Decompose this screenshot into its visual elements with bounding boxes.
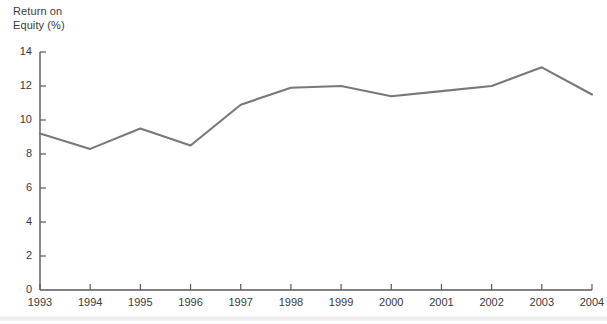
x-axis-tick-label: 1999	[318, 296, 364, 308]
x-axis-tick-label: 1994	[67, 296, 113, 308]
bottom-divider-band	[0, 316, 607, 321]
y-axis-tick-label: 14	[8, 45, 32, 57]
x-axis-ticks	[40, 284, 592, 290]
x-axis-tick-label: 2003	[519, 296, 565, 308]
x-axis-tick-label: 2000	[368, 296, 414, 308]
x-axis-tick-label: 1996	[168, 296, 214, 308]
y-axis-tick-label: 2	[8, 249, 32, 261]
y-axis-tick-label: 8	[8, 147, 32, 159]
x-axis-tick-label: 1993	[17, 296, 63, 308]
return-on-equity-chart: Return on Equity (%) 02468101214 1993199…	[0, 0, 607, 324]
chart-plot-area	[0, 0, 607, 324]
y-axis-tick-label: 12	[8, 79, 32, 91]
y-axis-tick-label: 6	[8, 181, 32, 193]
x-axis-tick-label: 1997	[218, 296, 264, 308]
y-axis-tick-label: 0	[8, 283, 32, 295]
x-axis-tick-label: 1998	[268, 296, 314, 308]
y-axis-tick-label: 4	[8, 215, 32, 227]
x-axis-tick-label: 1995	[117, 296, 163, 308]
y-axis-tick-label: 10	[8, 113, 32, 125]
x-axis-tick-label: 2001	[418, 296, 464, 308]
y-axis-ticks	[40, 52, 46, 256]
data-series-line	[40, 67, 592, 149]
x-axis-tick-label: 2002	[469, 296, 515, 308]
x-axis-tick-label: 2004	[569, 296, 607, 308]
